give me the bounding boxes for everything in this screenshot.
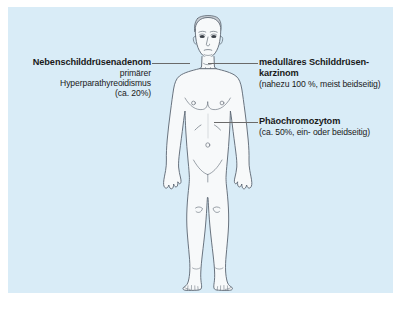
leader-line-thyroid [208,63,258,64]
anatomical-figure-panel: Nebenschilddrüsenadenom primärer Hyperpa… [0,0,407,310]
annotation-parathyroid: Nebenschilddrüsenadenom primärer Hyperpa… [0,57,151,98]
annotation-thyroid-carcinoma: medulläres Schilddrüsen- karzinom (nahez… [259,57,404,89]
annotation-parathyroid-line3: Hyperparathyreoidismus [0,78,151,88]
annotation-thyroid-title-line2: karzinom [259,68,404,79]
leader-line-pheochromocytoma [214,122,258,123]
annotation-thyroid-detail: (nahezu 100 %, meist beidseitig) [259,79,404,89]
annotation-parathyroid-title: Nebenschilddrüsenadenom [0,57,151,68]
annotation-thyroid-title-line1: medulläres Schilddrüsen- [259,57,404,68]
annotation-parathyroid-line2: primärer [0,68,151,78]
annotation-pheochromocytoma-title: Phäochromozytom [259,116,404,127]
annotation-parathyroid-line4: (ca. 20%) [0,88,151,98]
human-body-illustration [148,10,268,292]
annotation-pheochromocytoma: Phäochromozytom (ca. 50%, ein- oder beid… [259,116,404,137]
leader-line-parathyroid [152,63,190,64]
annotation-pheochromocytoma-detail: (ca. 50%, ein- oder beidseitig) [259,127,404,137]
